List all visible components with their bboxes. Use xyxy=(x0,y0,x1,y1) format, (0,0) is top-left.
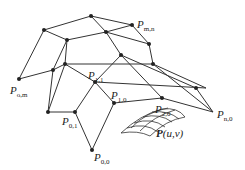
label-p-01: P0,1 xyxy=(61,115,78,130)
label-p-mn: Pm,n xyxy=(136,18,155,33)
label-p-n0: Pn,0 xyxy=(216,108,233,123)
label-p-om: Po,m xyxy=(9,84,28,99)
label-p-11: P1,1 xyxy=(87,69,104,84)
label-p-00: P0,0 xyxy=(93,151,110,166)
control-net-edges xyxy=(19,16,213,150)
control-net-diagram: Pm,n Po,m P1,1 P1,0 P0,1 P2,0 Pn,0 P0,0 … xyxy=(0,0,245,170)
label-p-uv: P(u,v) xyxy=(156,127,184,140)
